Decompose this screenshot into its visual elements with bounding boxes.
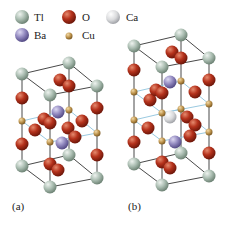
o-atom: [91, 149, 104, 162]
tl-atom: [203, 170, 216, 183]
legend-label-ca: Ca: [126, 11, 138, 23]
cu-atom: [94, 130, 101, 137]
o-atom: [175, 52, 188, 65]
cu-atom: [131, 117, 138, 124]
o-atom: [76, 115, 89, 128]
o-atom: [63, 80, 76, 93]
cu-atom: [159, 110, 166, 117]
tl-atom: [63, 57, 76, 70]
cu-atom: [178, 106, 185, 113]
o-atom: [142, 122, 155, 135]
ca-atom-icon: [106, 10, 120, 24]
panel-label-b: (b): [128, 200, 141, 213]
o-atom: [164, 162, 177, 175]
tl-atom: [128, 40, 141, 53]
ba-atom: [56, 137, 69, 150]
cu-atom: [159, 138, 166, 145]
tl-atom: [128, 158, 141, 171]
o-atom: [203, 147, 216, 160]
legend-item-tl: Tl: [15, 10, 44, 24]
o-atom: [91, 102, 104, 115]
legend-label-tl: Tl: [34, 11, 44, 23]
tl-atom: [175, 147, 188, 160]
tl-atom: [91, 172, 104, 185]
tl-atom: [16, 68, 29, 81]
legend-label-cu: Cu: [82, 29, 95, 41]
panel-label-a: (a): [12, 200, 25, 213]
tl-atom: [203, 52, 216, 65]
tl-atom: [63, 149, 76, 162]
cu-atom-icon: [66, 33, 73, 40]
unit-cell-b: (b): [128, 29, 216, 214]
cu-atom: [131, 89, 138, 96]
o-atom: [16, 138, 29, 151]
ba-atom: [52, 106, 65, 119]
legend-item-ca: Ca: [106, 10, 138, 24]
o-atom: [52, 164, 65, 177]
legend: Tl O Ca Ba Cu: [15, 10, 138, 42]
legend-item-o: O: [62, 10, 90, 24]
tl-atom-icon: [15, 10, 29, 24]
tl-atom: [44, 181, 57, 194]
cu-atom: [206, 101, 213, 108]
cu-atom: [66, 107, 73, 114]
crystal-structure-figure: Tl O Ca Ba Cu: [0, 0, 232, 226]
ba-atom-icon: [15, 28, 29, 42]
o-atom: [184, 130, 197, 143]
o-atom: [69, 131, 82, 144]
unit-cell-a: (a): [12, 57, 104, 214]
o-atom: [16, 92, 29, 105]
o-atom: [156, 87, 169, 100]
tl-atom: [175, 29, 188, 42]
cu-atom: [47, 139, 54, 146]
legend-item-ba: Ba: [15, 28, 46, 42]
tl-atom: [91, 80, 104, 93]
tl-atom: [16, 160, 29, 173]
legend-label-o: O: [82, 11, 90, 23]
o-atom: [29, 124, 42, 137]
tl-atom: [44, 89, 57, 102]
tl-atom: [156, 61, 169, 74]
ba-atom: [169, 136, 182, 149]
cu-atom: [178, 78, 185, 85]
cu-atom: [19, 118, 26, 125]
tl-atom: [156, 179, 169, 192]
o-atom: [203, 74, 216, 87]
legend-label-ba: Ba: [34, 29, 46, 41]
cu-atom: [206, 129, 213, 136]
ba-atom: [164, 76, 177, 89]
o-atom-icon: [62, 10, 76, 24]
o-atom: [128, 64, 141, 77]
o-atom: [189, 86, 202, 99]
legend-item-cu: Cu: [66, 29, 96, 41]
o-atom: [44, 117, 57, 130]
o-atom: [128, 136, 141, 149]
